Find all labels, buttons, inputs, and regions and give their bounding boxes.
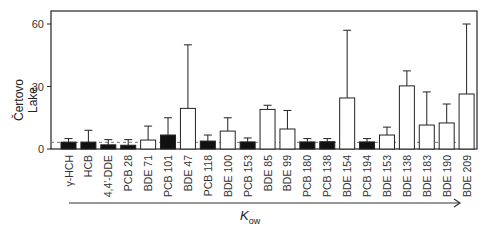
- bar: [459, 94, 474, 149]
- x-tick-label: BDE 190: [441, 155, 453, 197]
- x-tick-label: PCB 101: [162, 155, 174, 197]
- x-tick-label: BDE 183: [421, 155, 433, 197]
- x-tick-label: BDE 209: [461, 155, 473, 197]
- bar: [260, 109, 275, 149]
- bar: [141, 140, 156, 149]
- bar: [161, 135, 176, 149]
- bar: [61, 142, 76, 149]
- bar: [121, 145, 136, 149]
- x-tick-label: BDE 100: [222, 155, 234, 197]
- x-tick-label: BDE 153: [381, 155, 393, 197]
- x-tick-label: BDE 99: [281, 155, 293, 191]
- x-tick-label: HCB: [82, 155, 94, 177]
- bar-chart: 03060γ-HCHHCB4,4'-DDEPCB 28BDE 71PCB 101…: [0, 0, 492, 234]
- bar: [300, 142, 315, 149]
- bar: [220, 131, 235, 149]
- x-tick-label: PCB 28: [122, 155, 134, 191]
- x-tick-label: BDE 85: [262, 155, 274, 191]
- y-axis-label: Čertovo Lake: [12, 77, 40, 123]
- x-tick-label: 4,4'-DDE: [102, 155, 114, 197]
- x-tick-label: BDE 138: [401, 155, 413, 197]
- x-tick-label: BDE 47: [182, 155, 194, 191]
- bar: [419, 125, 434, 149]
- bar: [340, 98, 355, 149]
- x-tick-label: BDE 154: [341, 155, 353, 197]
- bar: [101, 145, 116, 149]
- x-tick-label: PCB 180: [301, 155, 313, 197]
- bar: [180, 108, 195, 149]
- x-tick-label: BDE 71: [142, 155, 154, 191]
- bar: [200, 141, 215, 149]
- bar: [280, 129, 295, 149]
- bar: [320, 142, 335, 149]
- bar: [379, 135, 394, 149]
- x-tick-label: PCB 118: [202, 155, 214, 196]
- x-tick-label: γ-HCH: [63, 155, 75, 187]
- x-tick-label: PCB 138: [321, 155, 333, 197]
- x-tick-label: PCB 153: [242, 155, 254, 197]
- bar: [81, 142, 96, 149]
- bar: [399, 86, 414, 149]
- x-tick-label: PCB 194: [361, 155, 373, 197]
- bar: [240, 142, 255, 149]
- bar: [360, 142, 375, 149]
- y-tick-label: 0: [38, 143, 44, 155]
- y-tick-label: 60: [32, 18, 44, 30]
- bar: [439, 123, 454, 149]
- x-axis-label: Kow: [240, 208, 260, 226]
